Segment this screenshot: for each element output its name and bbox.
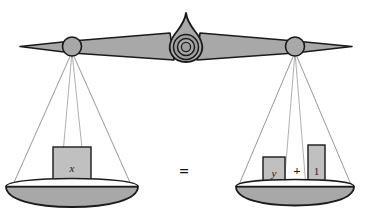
right-hanger-knob bbox=[286, 37, 305, 56]
balance-scale-illustration: x = y + 1 bbox=[0, 0, 375, 214]
left-pan-bowl bbox=[6, 187, 138, 208]
block-one-label: 1 bbox=[314, 165, 320, 177]
equals-sign: = bbox=[179, 162, 189, 181]
balance-scale-figure: x = y + 1 bbox=[0, 0, 375, 214]
right-pan bbox=[236, 180, 354, 206]
block-y-label: y bbox=[271, 167, 277, 179]
fulcrum-inner-ring bbox=[181, 42, 190, 51]
left-pan-rim bbox=[6, 179, 138, 187]
plus-sign: + bbox=[293, 163, 300, 178]
beam-left-arm bbox=[20, 33, 174, 60]
left-hanger-knob bbox=[63, 37, 82, 56]
beam-right-arm bbox=[197, 33, 352, 60]
block-x-label: x bbox=[69, 162, 75, 174]
right-pan-bowl bbox=[236, 187, 354, 206]
left-pan bbox=[6, 179, 138, 208]
right-pan-rim bbox=[236, 180, 354, 187]
fulcrum-assembly bbox=[170, 13, 202, 62]
